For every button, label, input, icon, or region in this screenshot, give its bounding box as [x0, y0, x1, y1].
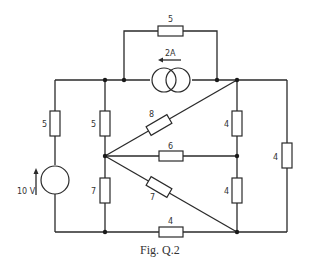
resistor-right-upper	[232, 111, 242, 136]
circuit-figure: 5 2A 5 5 7 8 6 7 4 4 4 4 10 V Fig. Q.2	[0, 0, 311, 261]
resistor-inner-upper	[100, 111, 110, 136]
wires	[55, 31, 287, 232]
label-r-right-lower: 4	[224, 187, 229, 196]
voltage-source	[34, 166, 70, 195]
resistor-middle	[159, 151, 183, 161]
label-voltage-source: 10 V	[17, 187, 36, 196]
label-r-middle: 6	[168, 142, 173, 151]
label-r-top-bridge: 5	[168, 15, 173, 24]
resistor-right-lower	[232, 178, 242, 203]
label-r-inner-upper: 5	[91, 120, 96, 129]
resistor-top-bridge	[158, 26, 183, 36]
label-r-left: 5	[42, 120, 47, 129]
resistor-left	[50, 111, 60, 136]
label-r-bottom: 4	[168, 217, 173, 226]
resistor-far-right	[282, 143, 292, 168]
label-r-diag-upper: 8	[149, 110, 154, 119]
label-r-inner-lower: 7	[91, 187, 96, 196]
arrow-left-icon	[158, 58, 163, 63]
label-r-right-upper: 4	[224, 120, 229, 129]
arrow-up-icon	[34, 168, 39, 174]
current-source	[152, 58, 190, 93]
label-r-far-right: 4	[273, 153, 278, 162]
label-r-diag-lower: 7	[150, 193, 155, 202]
resistor-inner-lower	[100, 178, 110, 203]
resistor-bottom	[159, 227, 183, 237]
label-current-source: 2A	[165, 49, 176, 58]
circuit-diagram: 5 2A 5 5 7 8 6 7 4 4 4 4 10 V Fig. Q.2	[0, 0, 311, 261]
figure-caption: Fig. Q.2	[140, 243, 180, 257]
